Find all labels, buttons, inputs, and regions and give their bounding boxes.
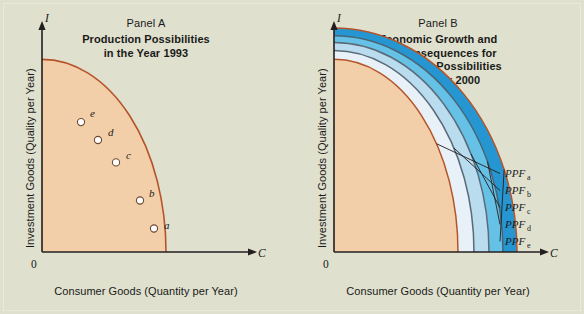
svg-text:b: b bbox=[149, 187, 155, 199]
ppf-label-group: PPFaPPFbPPFcPPFdPPFe bbox=[504, 167, 531, 250]
economics-figure: Panel A Production Possibilities in the … bbox=[0, 0, 584, 314]
svg-text:PPF: PPF bbox=[504, 184, 525, 196]
ppf-region-1993 bbox=[42, 59, 166, 252]
svg-text:PPF: PPF bbox=[504, 218, 525, 230]
svg-text:PPF: PPF bbox=[504, 167, 525, 179]
svg-text:d: d bbox=[527, 224, 531, 233]
ppf-label-PPFa: PPFa bbox=[504, 167, 531, 182]
svg-text:e: e bbox=[90, 107, 95, 119]
svg-text:a: a bbox=[164, 219, 170, 231]
svg-text:a: a bbox=[527, 173, 531, 182]
panel-a: Panel A Production Possibilities in the … bbox=[0, 0, 292, 314]
svg-text:c: c bbox=[126, 149, 131, 161]
svg-text:b: b bbox=[527, 190, 531, 199]
panel-a-plot: abcde bbox=[0, 0, 292, 314]
ppf-band-group bbox=[334, 28, 517, 252]
svg-text:PPF: PPF bbox=[504, 201, 525, 213]
svg-text:PPF: PPF bbox=[504, 235, 525, 247]
svg-text:c: c bbox=[527, 207, 531, 216]
svg-text:d: d bbox=[108, 126, 114, 138]
panel-b: Panel B Economic Growth and the Conseque… bbox=[292, 0, 584, 314]
panel-b-plot: PPFaPPFbPPFcPPFdPPFe bbox=[292, 0, 584, 314]
svg-text:e: e bbox=[527, 241, 531, 250]
